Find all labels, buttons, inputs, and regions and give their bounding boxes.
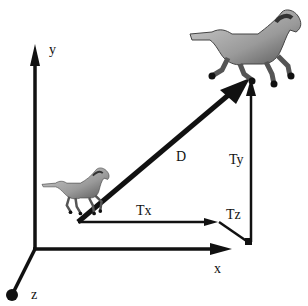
tx-vector [78,218,218,226]
displacement-vector [78,78,250,222]
tz-vector [219,222,252,245]
ty-label: Ty [229,153,244,167]
y-axis [30,44,40,249]
horse-start-icon [42,168,109,215]
diagram-canvas: y x z D Ty Tx Tz [0,0,308,306]
d-vector-label: D [176,150,186,164]
tx-label: Tx [136,204,152,218]
x-axis [33,243,232,255]
y-axis-label: y [49,43,56,57]
x-axis-label: x [214,262,221,276]
diagram-svg [0,0,308,306]
ty-vector [246,78,256,242]
z-axis-label: z [31,288,37,302]
tz-label: Tz [226,208,241,222]
horse-end-icon [190,10,301,88]
